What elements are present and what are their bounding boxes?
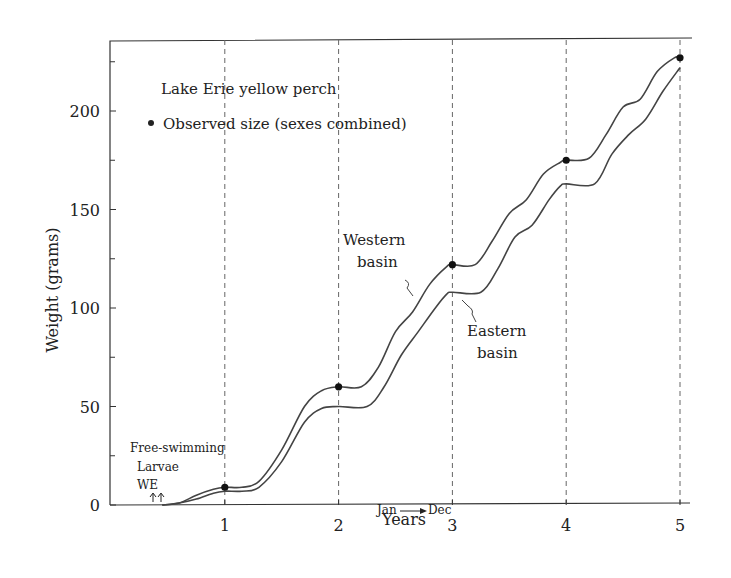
x-axis: 12345 — [220, 500, 685, 535]
western-label-line2: basin — [357, 253, 398, 271]
x-tick-label: 4 — [561, 516, 571, 535]
plot-frame — [110, 38, 692, 505]
chart-title: Lake Erie yellow perch — [161, 80, 337, 98]
western-label-line1: Western — [343, 231, 406, 249]
x-tick-label: 3 — [447, 516, 457, 535]
eastern-label-line1: Eastern — [467, 322, 527, 340]
legend-dot-icon — [148, 120, 154, 126]
x-tick-label: 5 — [675, 516, 685, 535]
observed-point — [676, 54, 683, 61]
x-tick-label: 2 — [334, 516, 344, 535]
jan-label: Jan — [375, 503, 397, 517]
observed-point — [221, 484, 228, 491]
y-axis: 050100150200 — [69, 62, 116, 515]
eastern-pointer — [462, 300, 476, 322]
western-pointer — [405, 280, 413, 296]
y-tick-label: 100 — [69, 299, 100, 318]
observed-point — [449, 261, 456, 268]
year-gridlines — [225, 40, 680, 505]
x-axis-line — [110, 503, 690, 505]
free-swimming-label: Free-swimming — [130, 441, 225, 455]
y-tick-label: 150 — [69, 201, 100, 220]
eastern-basin-curve — [162, 68, 680, 505]
eastern-label-line2: basin — [477, 344, 518, 362]
growth-chart: 050100150200 12345 Lake Erie yellow perc… — [0, 0, 731, 578]
y-axis-title: Weight (grams) — [43, 227, 62, 352]
legend-label: Observed size (sexes combined) — [163, 115, 407, 133]
larvae-arrows-icon — [150, 493, 164, 502]
axis-frame-line — [110, 38, 692, 505]
y-tick-label: 0 — [90, 496, 100, 515]
we-label: WE — [137, 478, 158, 492]
observed-point — [335, 383, 342, 390]
y-tick-label: 200 — [69, 102, 100, 121]
larvae-label: Larvae — [137, 460, 179, 474]
observed-point — [563, 157, 570, 164]
x-tick-label: 1 — [220, 516, 230, 535]
dec-label: Dec — [428, 503, 452, 517]
y-tick-label: 50 — [80, 398, 100, 417]
